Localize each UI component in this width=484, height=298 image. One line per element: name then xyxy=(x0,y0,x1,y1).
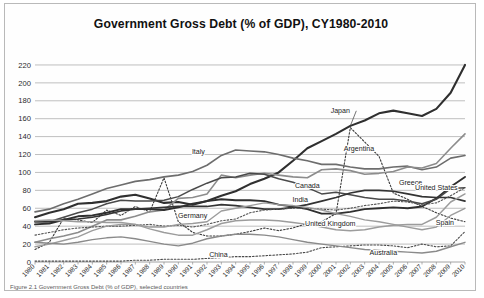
x-axis-tick: 2001 xyxy=(321,263,337,279)
x-axis-tick: 2007 xyxy=(407,263,423,279)
x-axis-tick: 1999 xyxy=(293,263,309,279)
series-label-germany: Germany xyxy=(178,212,208,220)
x-axis-tick: 1993 xyxy=(207,263,223,279)
y-axis-tick: 220 xyxy=(18,61,31,70)
y-axis-tick: 40 xyxy=(23,222,31,231)
x-axis-tick: 1985 xyxy=(92,263,108,279)
x-axis-tick: 1994 xyxy=(221,263,237,279)
series-label-china: China xyxy=(209,251,228,259)
x-axis-tick: 1987 xyxy=(121,263,137,279)
series-label-japan: Japan xyxy=(331,107,350,115)
x-axis-tick: 1981 xyxy=(35,263,51,279)
x-axis-tick: 1989 xyxy=(149,263,165,279)
series-label-united-kingdom: United Kingdom xyxy=(305,220,356,228)
series-label-italy: Italy xyxy=(192,148,205,156)
x-axis-tick: 1988 xyxy=(135,263,151,279)
x-axis-tick: 1983 xyxy=(63,263,79,279)
series-line-japan xyxy=(35,65,465,217)
x-axis-tick: 2005 xyxy=(379,263,395,279)
y-axis-tick: 80 xyxy=(23,186,31,195)
x-axis-tick: 1984 xyxy=(78,263,94,279)
x-axis-tick: 1995 xyxy=(235,263,251,279)
x-axis-tick: 2002 xyxy=(336,263,352,279)
x-axis-tick: 1996 xyxy=(250,263,266,279)
series-label-spain: Spain xyxy=(436,219,454,227)
series-label-canada: Canada xyxy=(295,182,320,190)
series-line-china xyxy=(35,232,465,262)
x-axis-tick: 2003 xyxy=(350,263,366,279)
y-axis-tick: 160 xyxy=(18,114,31,123)
x-axis-tick: 1992 xyxy=(192,263,208,279)
x-axis-tick: 2009 xyxy=(436,263,452,279)
chart-card: Government Gross Debt (% of GDP), CY1980… xyxy=(4,3,476,291)
x-axis-tick: 1998 xyxy=(278,263,294,279)
x-axis-tick: 2010 xyxy=(450,263,466,279)
x-axis-tick: 2008 xyxy=(422,263,438,279)
y-axis-tick-labels: 020406080100120140160180200220 xyxy=(18,61,31,267)
series-line-argentina xyxy=(35,128,465,250)
x-axis-tick: 1982 xyxy=(49,263,65,279)
x-axis-tick: 1990 xyxy=(164,263,180,279)
figure-caption: Figure 2.1 Government Gross Debt (% of G… xyxy=(10,283,310,290)
x-axis-tick: 2006 xyxy=(393,263,409,279)
y-axis-tick: 180 xyxy=(18,96,31,105)
x-axis-tick: 1980 xyxy=(20,263,36,279)
series-label-united-states: United States xyxy=(415,184,458,192)
x-axis-tick: 1997 xyxy=(264,263,280,279)
x-axis-tick: 1986 xyxy=(106,263,122,279)
series-label-india: India xyxy=(292,196,307,204)
x-axis-tick: 1991 xyxy=(178,263,194,279)
y-axis-tick: 200 xyxy=(18,79,31,88)
line-chart-plot: 020406080100120140160180200220 198019811… xyxy=(5,4,476,291)
series-line-australia xyxy=(35,234,465,253)
series-label-australia: Australia xyxy=(369,249,397,257)
data-series-lines xyxy=(35,65,465,261)
x-axis-tick-labels: 1980198119821983198419851986198719881989… xyxy=(20,263,466,279)
y-axis-tick: 100 xyxy=(18,168,31,177)
y-axis-tick: 140 xyxy=(18,132,31,141)
series-label-argentina: Argentina xyxy=(344,145,374,153)
y-axis-tick: 20 xyxy=(23,240,31,249)
y-axis-tick: 120 xyxy=(18,150,31,159)
x-axis-tick: 2000 xyxy=(307,263,323,279)
x-axis-tick: 2004 xyxy=(364,263,380,279)
y-axis-tick: 60 xyxy=(23,204,31,213)
